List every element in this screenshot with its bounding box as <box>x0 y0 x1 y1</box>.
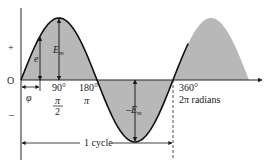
angle-360-deg-label: 360° <box>179 82 198 93</box>
cycle-label: 1 cycle <box>84 137 113 148</box>
angle-90-deg-label: 90° <box>52 82 66 93</box>
sine-wave-diagram: e Em –Em φ 1 cycle + – O 90° π 2 180° π … <box>0 0 273 164</box>
origin-label: O <box>7 75 14 86</box>
positive-sign-label: + <box>8 42 14 53</box>
negative-sign-label: – <box>8 109 15 120</box>
angle-360-rad-label: 2π radians <box>179 94 221 105</box>
angle-180-rad-label: π <box>84 95 90 106</box>
second-positive-half-cycle-fill <box>173 18 249 80</box>
phase-label: φ <box>26 92 32 103</box>
angle-90-rad-denominator: 2 <box>55 106 60 117</box>
angle-90-rad-numerator: π <box>55 95 61 106</box>
angle-180-deg-label: 180° <box>79 82 98 93</box>
instantaneous-value-label: e <box>34 53 39 64</box>
